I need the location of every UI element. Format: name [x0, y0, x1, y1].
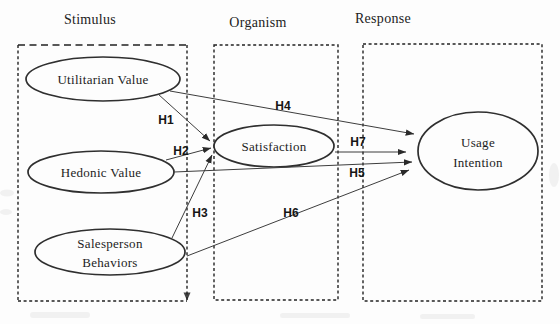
hypothesis-label-h7: H7	[350, 135, 366, 149]
usage-intention-label-line2: Intention	[453, 155, 503, 170]
satisfaction-label: Satisfaction	[242, 139, 307, 154]
salesperson-behaviors-label-line1: Salesperson	[77, 236, 143, 251]
section-label-response: Response	[355, 11, 411, 26]
hedonic-value-label: Hedonic Value	[61, 165, 142, 180]
section-box-organism	[214, 45, 338, 300]
hypothesis-label-h6: H6	[283, 206, 299, 220]
sor-model-figure: Stimulus Organism Response Utilitarian V…	[0, 0, 560, 324]
arrow-h3	[172, 155, 212, 238]
hypothesis-label-h4: H4	[275, 99, 291, 113]
node-hedonic-value: Hedonic Value	[28, 151, 174, 193]
utilitarian-value-label: Utilitarian Value	[57, 72, 148, 87]
hypothesis-label-h5: H5	[349, 166, 365, 180]
usage-intention-ellipse	[418, 112, 538, 190]
section-label-organism: Organism	[229, 15, 286, 30]
section-label-stimulus: Stimulus	[64, 12, 116, 27]
node-usage-intention: Usage Intention	[418, 112, 538, 190]
usage-intention-label-line1: Usage	[461, 135, 495, 150]
hypothesis-label-h3: H3	[192, 206, 208, 220]
hypothesis-label-h1: H1	[158, 113, 174, 127]
scan-artifact-arrowhead	[184, 293, 191, 301]
node-salesperson-behaviors: Salesperson Behaviors	[35, 229, 185, 275]
sor-model-canvas: Stimulus Organism Response Utilitarian V…	[0, 0, 560, 324]
node-satisfaction: Satisfaction	[214, 125, 334, 167]
node-utilitarian-value: Utilitarian Value	[26, 57, 180, 101]
salesperson-behaviors-label-line2: Behaviors	[82, 255, 137, 270]
hypothesis-label-h2: H2	[173, 144, 189, 158]
